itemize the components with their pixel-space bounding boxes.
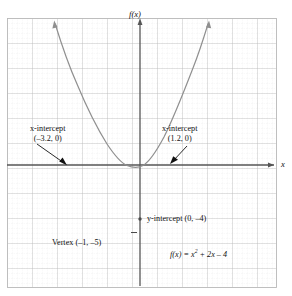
plot-area (7, 18, 277, 288)
x-intercept-right-coords: (1.2, 0) (162, 134, 197, 144)
x-intercept-left-coords: (–3.2, 0) (30, 134, 65, 144)
annotation-x-intercept-left: x-intercept (–3.2, 0) (30, 124, 65, 145)
equation-lhs: f(x) = x (170, 250, 195, 259)
equation-rhs: + 2x – 4 (197, 250, 227, 259)
annotation-vertex: Vertex (–1, –5) (52, 238, 101, 248)
x-intercept-left-title: x-intercept (30, 124, 65, 134)
y-axis-label: f(x) (129, 9, 141, 20)
annotation-x-intercept-right: x-intercept (1.2, 0) (162, 124, 197, 145)
annotation-y-intercept: y-intercept (0, –4) (147, 214, 206, 224)
x-axis-label: x (281, 159, 285, 170)
parabola-figure: f(x) x x-intercept (–3.2, 0) x-intercept… (0, 0, 292, 296)
point-y-intercept (138, 217, 141, 220)
major-gridlines (8, 19, 277, 288)
x-intercept-right-title: x-intercept (162, 124, 197, 134)
faint-header-text (0, 0, 292, 9)
graph-canvas (7, 18, 277, 288)
annotation-equation: f(x) = x2 + 2x – 4 (170, 250, 227, 260)
